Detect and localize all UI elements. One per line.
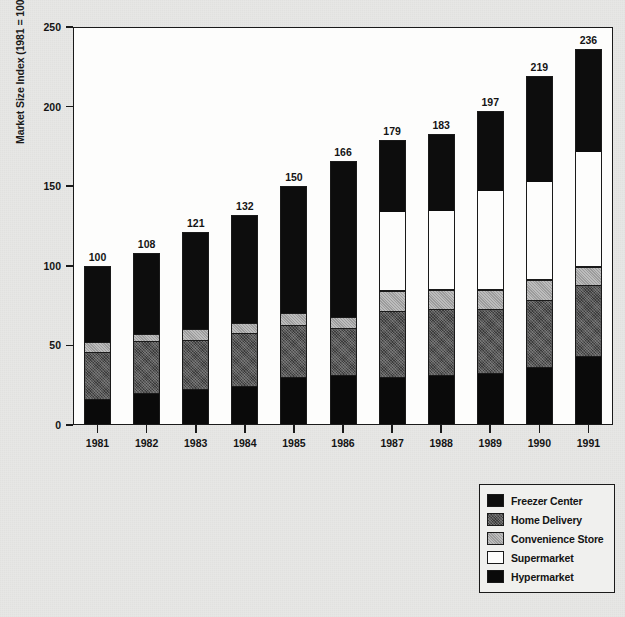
bar-segment-home bbox=[232, 334, 257, 386]
bar-segment-hyper bbox=[478, 373, 503, 424]
bar-segment-hyper bbox=[183, 389, 208, 424]
bar-segment-home bbox=[331, 329, 356, 375]
bar-value-label: 183 bbox=[432, 119, 450, 131]
bar-segment-hyper bbox=[134, 393, 159, 424]
x-axis-tick-label-1986: 1986 bbox=[320, 437, 366, 449]
bar-segment-convenience bbox=[232, 323, 257, 334]
bar-value-label: 236 bbox=[580, 34, 598, 46]
x-axis-tick-mark bbox=[539, 425, 541, 433]
x-axis-tick-label-1985: 1985 bbox=[271, 437, 317, 449]
bar-1983[interactable] bbox=[182, 232, 209, 425]
chart-page: Market Size Index (1981 = 100) 050100150… bbox=[0, 0, 625, 617]
bar-1982[interactable] bbox=[133, 253, 160, 425]
bar-1987[interactable] bbox=[379, 140, 406, 425]
legend-swatch-hyper bbox=[487, 570, 504, 583]
x-axis-tick-mark bbox=[440, 425, 442, 433]
bar-segment-convenience bbox=[281, 313, 306, 326]
bar-segment-home bbox=[478, 310, 503, 373]
x-axis-tick-mark bbox=[244, 425, 246, 433]
x-axis-tick-mark bbox=[293, 425, 295, 433]
bar-segment-freezer bbox=[576, 50, 601, 151]
legend-item-hyper[interactable]: Hypermarket bbox=[487, 567, 607, 586]
bar-segment-freezer bbox=[527, 77, 552, 181]
bar-segment-hyper bbox=[85, 399, 110, 424]
y-axis-tick-mark bbox=[66, 26, 73, 28]
bar-1990[interactable] bbox=[526, 76, 553, 425]
bar-1986[interactable] bbox=[330, 161, 357, 425]
bar-segment-home bbox=[183, 341, 208, 390]
bar-value-label: 219 bbox=[531, 61, 549, 73]
bar-1989[interactable] bbox=[477, 111, 504, 425]
bar-segment-freezer bbox=[183, 233, 208, 329]
bar-segment-supermarket bbox=[576, 152, 601, 268]
x-axis-tick-label-1989: 1989 bbox=[467, 437, 513, 449]
bar-segment-home bbox=[527, 301, 552, 367]
bar-value-label: 179 bbox=[383, 125, 401, 137]
bar-segment-convenience bbox=[478, 290, 503, 311]
x-axis-tick-label-1990: 1990 bbox=[516, 437, 562, 449]
x-axis-tick-mark bbox=[146, 425, 148, 433]
bar-segment-hyper bbox=[527, 367, 552, 424]
bar-segment-home bbox=[429, 310, 454, 375]
bar-1991[interactable] bbox=[575, 49, 602, 425]
x-axis-tick-mark bbox=[391, 425, 393, 433]
bar-segment-convenience bbox=[85, 342, 110, 353]
bar-segment-freezer bbox=[478, 112, 503, 191]
y-axis-tick-label: 150 bbox=[27, 180, 61, 192]
bar-segment-freezer bbox=[134, 254, 159, 334]
bar-segment-supermarket bbox=[527, 182, 552, 280]
bar-1988[interactable] bbox=[428, 134, 455, 425]
y-axis-tick-label: 50 bbox=[27, 339, 61, 351]
x-axis-tick-label-1982: 1982 bbox=[124, 437, 170, 449]
bar-segment-convenience bbox=[134, 334, 159, 342]
bar-segment-hyper bbox=[232, 386, 257, 424]
bar-segment-freezer bbox=[380, 141, 405, 212]
bar-segment-convenience bbox=[429, 290, 454, 311]
x-axis-tick-label-1987: 1987 bbox=[369, 437, 415, 449]
x-axis-tick-mark bbox=[588, 425, 590, 433]
legend-item-home[interactable]: Home Delivery bbox=[487, 510, 607, 529]
bar-segment-hyper bbox=[380, 377, 405, 424]
legend-label: Freezer Center bbox=[511, 495, 582, 507]
legend: Freezer CenterHome DeliveryConvenience S… bbox=[479, 484, 615, 593]
y-axis-tick-mark bbox=[66, 106, 73, 108]
bar-1984[interactable] bbox=[231, 215, 258, 425]
bar-segment-freezer bbox=[331, 162, 356, 317]
bar-segment-freezer bbox=[281, 187, 306, 313]
x-axis-tick-mark bbox=[97, 425, 99, 433]
bar-segment-home bbox=[380, 312, 405, 377]
y-axis-tick-label: 100 bbox=[27, 260, 61, 272]
bar-segment-home bbox=[281, 326, 306, 377]
y-axis-tick-label: 200 bbox=[27, 101, 61, 113]
bar-segment-supermarket bbox=[429, 211, 454, 290]
y-axis-tick-label: 0 bbox=[27, 419, 61, 431]
bar-segment-supermarket bbox=[478, 191, 503, 289]
bar-segment-hyper bbox=[576, 356, 601, 424]
y-axis-tick-mark bbox=[66, 424, 73, 426]
legend-item-supermarket[interactable]: Supermarket bbox=[487, 548, 607, 567]
bar-1981[interactable] bbox=[84, 266, 111, 425]
plot-area: 100108121132150166179183197219236 bbox=[73, 27, 613, 425]
bar-segment-home bbox=[134, 342, 159, 392]
bar-segment-supermarket bbox=[380, 212, 405, 291]
bar-value-label: 100 bbox=[89, 251, 107, 263]
bar-1985[interactable] bbox=[280, 186, 307, 425]
bar-segment-hyper bbox=[331, 375, 356, 424]
x-axis-tick-label-1981: 1981 bbox=[75, 437, 121, 449]
x-axis-tick-label-1991: 1991 bbox=[565, 437, 611, 449]
bar-segment-freezer bbox=[429, 135, 454, 211]
legend-swatch-convenience bbox=[487, 532, 504, 545]
bar-segment-freezer bbox=[232, 216, 257, 323]
x-axis-tick-label-1983: 1983 bbox=[173, 437, 219, 449]
bar-segment-convenience bbox=[183, 329, 208, 340]
bar-segment-home bbox=[85, 353, 110, 399]
bar-segment-home bbox=[576, 286, 601, 356]
legend-label: Convenience Store bbox=[511, 533, 604, 545]
bar-segment-hyper bbox=[281, 377, 306, 424]
x-axis-tick-label-1984: 1984 bbox=[222, 437, 268, 449]
bar-value-label: 132 bbox=[236, 200, 254, 212]
legend-item-freezer[interactable]: Freezer Center bbox=[487, 491, 607, 510]
bar-segment-convenience bbox=[527, 280, 552, 301]
y-axis-tick-mark bbox=[66, 185, 73, 187]
legend-item-convenience[interactable]: Convenience Store bbox=[487, 529, 607, 548]
